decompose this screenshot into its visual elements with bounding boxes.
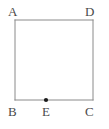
point-e-marker bbox=[44, 98, 48, 102]
geometry-figure: A D B E C bbox=[0, 0, 109, 129]
vertex-label-b: B bbox=[8, 105, 17, 118]
vertex-label-e: E bbox=[42, 105, 50, 118]
vertex-label-a: A bbox=[8, 5, 17, 18]
vertex-label-c: C bbox=[85, 105, 94, 118]
vertex-label-d: D bbox=[85, 5, 94, 18]
